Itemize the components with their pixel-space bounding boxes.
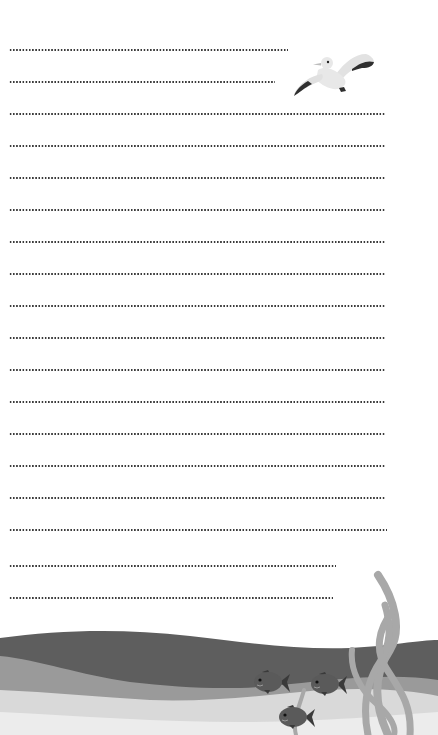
writing-line (9, 433, 386, 435)
writing-line (9, 305, 386, 307)
fish-icon (279, 705, 315, 729)
writing-line (9, 529, 387, 531)
writing-line (9, 497, 386, 499)
writing-line (9, 401, 386, 403)
writing-line (9, 597, 333, 599)
seagull-icon (0, 0, 438, 735)
writing-line (9, 49, 288, 51)
writing-line (9, 241, 386, 243)
writing-line (9, 369, 386, 371)
writing-line (9, 177, 386, 179)
writing-line (9, 113, 386, 115)
sea-illustration (0, 0, 438, 735)
fish-icon (311, 672, 347, 696)
writing-line (9, 81, 275, 83)
writing-line (9, 465, 386, 467)
writing-line (9, 209, 386, 211)
fish-icon (254, 670, 290, 694)
writing-line (9, 337, 386, 339)
writing-line (9, 145, 386, 147)
writing-line (9, 273, 386, 275)
stationery-page (0, 0, 438, 735)
writing-line (9, 565, 336, 567)
